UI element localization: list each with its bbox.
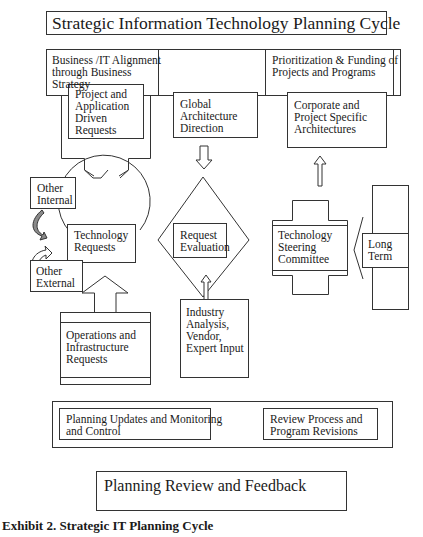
planning-cycle-diagram: Strategic Information Technology Plannin… bbox=[0, 0, 423, 537]
chevron-left-icon bbox=[354, 217, 363, 279]
other-internal-label: Other Internal bbox=[37, 182, 73, 206]
review-process-label: Review Process and Program Revisions bbox=[270, 413, 363, 437]
hollow-arrow-down-icon bbox=[196, 146, 212, 169]
operations-requests-label: Operations and Infrastructure Requests bbox=[66, 329, 136, 365]
project-requests-label: Project and Application Driven Requests bbox=[75, 88, 129, 136]
global-architecture-label: Global Architecture Direction bbox=[180, 98, 237, 134]
steering-committee-label: Technology Steering Committee bbox=[278, 229, 332, 265]
curved-arrow-internal-icon bbox=[33, 210, 47, 240]
diagram-title: Strategic Information Technology Plannin… bbox=[52, 13, 400, 33]
planning-updates-label: Planning Updates and Monitoring and Cont… bbox=[66, 413, 222, 437]
figure-caption: Exhibit 2. Strategic IT Planning Cycle bbox=[2, 518, 213, 534]
top-band-right-label: Prioritization & Funding of Projects and… bbox=[272, 54, 398, 78]
other-external-label: Other External bbox=[36, 265, 75, 289]
industry-input-label: Industry Analysis, Vendor, Expert Input bbox=[186, 306, 244, 354]
request-evaluation-label: Request Evaluation bbox=[180, 229, 230, 253]
long-term-label: Long Term bbox=[368, 238, 392, 262]
hollow-arrow-up-icon bbox=[314, 156, 326, 186]
top-band-left-label: Business /IT Alignment through Business … bbox=[52, 54, 161, 90]
corporate-architectures-label: Corporate and Project Specific Architect… bbox=[294, 99, 367, 135]
feedback-label: Planning Review and Feedback bbox=[104, 476, 306, 496]
technology-requests-label: Technology Requests bbox=[74, 229, 128, 253]
block-arrow-up-icon bbox=[82, 276, 128, 313]
